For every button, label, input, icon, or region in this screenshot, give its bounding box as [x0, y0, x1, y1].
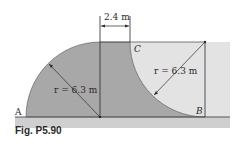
dimension-label: 2.4 m — [104, 12, 130, 22]
arrowhead-left-icon — [101, 25, 105, 28]
point-c-label: C — [134, 44, 141, 54]
arrowhead-right-icon — [125, 25, 129, 28]
radius-right-label: r = 6.3 m — [154, 66, 198, 76]
left-center-dot — [99, 116, 101, 118]
point-a-label: A — [14, 107, 22, 117]
figure-caption: Fig. P5.90 — [15, 125, 62, 136]
right-center-dot — [204, 41, 206, 43]
point-b-label: B — [195, 106, 203, 116]
radius-left-label: r = 6.3 m — [54, 85, 98, 95]
